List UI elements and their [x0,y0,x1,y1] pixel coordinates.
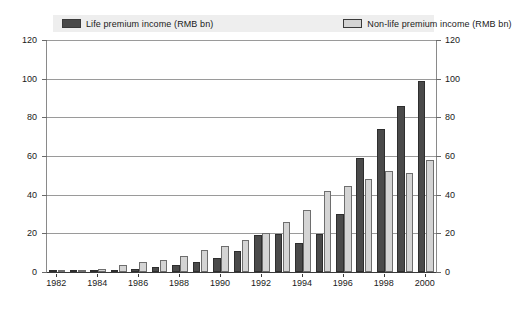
x-tick [302,274,303,277]
legend-item-life: Life premium income (RMB bn) [62,19,213,29]
y-tick-right [436,40,441,41]
bar-life [254,235,262,272]
x-axis-label: 1984 [87,278,107,288]
bar-nonlife [180,256,188,272]
x-axis-label: 1994 [292,278,312,288]
y-tick-right [436,195,441,196]
bar-life [90,270,98,272]
bar-group [375,40,395,272]
x-tick [425,274,426,277]
bar-life [336,214,344,272]
bar-life [234,251,242,272]
bar-nonlife [78,270,86,272]
bar-life [193,262,201,272]
y-axis-label-left: 60 [7,152,37,161]
bar-life [70,270,78,272]
light-swatch-icon [343,19,362,28]
bar-group [416,40,436,272]
x-tick [138,274,139,277]
bar-group [334,40,354,272]
x-axis-label: 1990 [210,278,230,288]
bar-group [231,40,251,272]
bar-nonlife [242,240,250,272]
bar-nonlife [426,160,434,272]
bar-life [152,267,160,272]
y-axis-label-right: 100 [445,75,475,84]
x-tick [384,274,385,277]
y-tick-right [436,117,441,118]
x-tick [343,274,344,277]
bar-group [47,40,67,272]
y-axis-label-right: 40 [445,191,475,200]
bar-group [354,40,374,272]
chart-legend: Life premium income (RMB bn) Non-life pr… [53,15,434,32]
x-axis-label: 1998 [374,278,394,288]
y-axis-label-left: 20 [7,229,37,238]
bar-life [49,270,57,272]
y-tick-right [436,156,441,157]
x-axis-label: 1992 [251,278,271,288]
x-axis-label: 1996 [333,278,353,288]
y-axis-label-left: 80 [7,113,37,122]
bar-nonlife [406,173,414,272]
x-tick [97,274,98,277]
bar-group [293,40,313,272]
legend-item-nonlife: Non-life premium income (RMB bn) [343,19,511,29]
bar-group [313,40,333,272]
y-tick-right [436,272,441,273]
bar-nonlife [385,171,393,272]
bar-series-container [47,40,436,272]
bar-nonlife [160,260,168,272]
bar-nonlife [221,246,229,272]
bar-group [211,40,231,272]
bar-life [131,269,139,272]
legend-label-nonlife: Non-life premium income (RMB bn) [367,19,511,29]
y-axis-label-right: 60 [445,152,475,161]
bar-life [275,234,283,272]
bar-group [170,40,190,272]
bar-nonlife [262,233,270,272]
y-axis-label-right: 120 [445,36,475,45]
bar-group [395,40,415,272]
bar-group [129,40,149,272]
y-tick-right [436,79,441,80]
bar-group [88,40,108,272]
bar-group [149,40,169,272]
bar-life [356,158,364,272]
bar-life [172,265,180,272]
x-axis-label: 2000 [415,278,435,288]
bar-nonlife [119,265,127,272]
bar-nonlife [303,210,311,272]
bar-nonlife [201,250,209,272]
y-axis-label-left: 120 [7,36,37,45]
y-axis-label-right: 20 [445,229,475,238]
bar-group [252,40,272,272]
plot-area: 002020404060608080100100120120 [46,40,437,273]
bar-life [213,258,221,272]
x-tick [220,274,221,277]
bar-life [397,106,405,272]
bar-nonlife [344,186,352,272]
bar-life [316,234,324,272]
dark-swatch-icon [62,19,81,28]
x-tick [179,274,180,277]
bar-nonlife [98,269,106,272]
bar-life [418,81,426,272]
bar-group [190,40,210,272]
bar-group [108,40,128,272]
y-tick-left [42,272,47,273]
legend-label-life: Life premium income (RMB bn) [86,19,213,29]
bar-group [272,40,292,272]
y-axis-label-left: 40 [7,191,37,200]
x-tick [261,274,262,277]
bar-life [111,270,119,272]
bar-group [67,40,87,272]
bar-nonlife [139,262,147,272]
bar-nonlife [365,179,373,272]
bar-nonlife [324,191,332,272]
x-axis-label: 1988 [169,278,189,288]
x-tick [56,274,57,277]
bar-life [295,243,303,272]
x-axis: 1982198419861988199019921994199619982000 [46,274,435,290]
